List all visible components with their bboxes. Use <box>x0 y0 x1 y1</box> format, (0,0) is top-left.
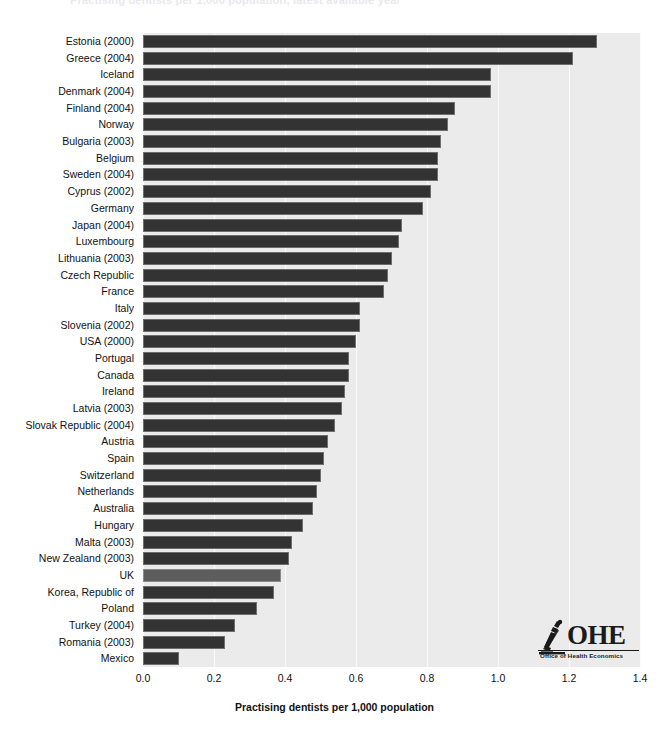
bar[interactable] <box>143 552 289 565</box>
bar-row[interactable] <box>143 517 640 534</box>
bar[interactable] <box>143 435 328 448</box>
bar[interactable] <box>143 185 431 198</box>
y-axis-label: Czech Republic <box>0 267 139 284</box>
bar[interactable] <box>143 168 438 181</box>
y-axis-label: Ireland <box>0 383 139 400</box>
bar[interactable] <box>143 652 179 665</box>
bar[interactable] <box>143 602 257 615</box>
bar[interactable] <box>143 485 317 498</box>
bar[interactable] <box>143 419 335 432</box>
bar[interactable] <box>143 285 384 298</box>
bar-row[interactable] <box>143 50 640 67</box>
bar[interactable] <box>143 68 491 81</box>
bar[interactable] <box>143 319 360 332</box>
bar-row[interactable] <box>143 183 640 200</box>
bar-row[interactable] <box>143 283 640 300</box>
y-axis-label: Germany <box>0 200 139 217</box>
bar[interactable] <box>143 352 349 365</box>
bar-row[interactable] <box>143 66 640 83</box>
bar[interactable] <box>143 452 324 465</box>
bar-row[interactable] <box>143 100 640 117</box>
bar-row[interactable] <box>143 383 640 400</box>
bar-row[interactable] <box>143 584 640 601</box>
y-axis-label: Korea, Republic of <box>0 584 139 601</box>
x-axis-title: Practising dentists per 1,000 population <box>0 701 669 713</box>
bar-row[interactable] <box>143 333 640 350</box>
bar[interactable] <box>143 202 423 215</box>
bar[interactable] <box>143 252 392 265</box>
bar[interactable] <box>143 35 597 48</box>
bar[interactable] <box>143 502 313 515</box>
y-axis-label: Bulgaria (2003) <box>0 133 139 150</box>
y-axis-label: Romania (2003) <box>0 634 139 651</box>
bar-row[interactable] <box>143 534 640 551</box>
bar-row[interactable] <box>143 467 640 484</box>
bar-row[interactable] <box>143 450 640 467</box>
bar-row[interactable] <box>143 433 640 450</box>
bar[interactable] <box>143 536 292 549</box>
x-axis-tick-label: 0.6 <box>336 672 376 684</box>
x-axis-tick-label: 0.2 <box>194 672 234 684</box>
bar[interactable] <box>143 152 438 165</box>
chart-title: Practising dentists per 1,000 population… <box>70 0 590 6</box>
bar[interactable] <box>143 385 345 398</box>
bar[interactable] <box>143 235 399 248</box>
bar-row[interactable] <box>143 83 640 100</box>
bar-row[interactable] <box>143 133 640 150</box>
x-axis-tick-label: 0.4 <box>265 672 305 684</box>
bar-row[interactable] <box>143 600 640 617</box>
bar[interactable] <box>143 52 573 65</box>
bar-row[interactable] <box>143 33 640 50</box>
bar[interactable] <box>143 569 281 582</box>
bar[interactable] <box>143 586 274 599</box>
y-axis-label: Hungary <box>0 517 139 534</box>
bar[interactable] <box>143 469 321 482</box>
y-axis-label: Belgium <box>0 150 139 167</box>
bar[interactable] <box>143 636 225 649</box>
y-axis-labels: Estonia (2000)Greece (2004)IcelandDenmar… <box>0 33 139 667</box>
bar-row[interactable] <box>143 500 640 517</box>
bar-row[interactable] <box>143 317 640 334</box>
bar-row[interactable] <box>143 150 640 167</box>
bar[interactable] <box>143 102 455 115</box>
ohe-logo: OHE Office of Health Economics <box>536 617 641 667</box>
bar-row[interactable] <box>143 350 640 367</box>
bar-row[interactable] <box>143 567 640 584</box>
bar[interactable] <box>143 519 303 532</box>
y-axis-label: Norway <box>0 116 139 133</box>
y-axis-label: Portugal <box>0 350 139 367</box>
bar-row[interactable] <box>143 250 640 267</box>
y-axis-label: Austria <box>0 433 139 450</box>
bar-row[interactable] <box>143 166 640 183</box>
bar[interactable] <box>143 219 402 232</box>
bar[interactable] <box>143 619 235 632</box>
bar[interactable] <box>143 118 448 131</box>
bar[interactable] <box>143 269 388 282</box>
bar-row[interactable] <box>143 217 640 234</box>
bar-row[interactable] <box>143 233 640 250</box>
bar-chart: Practising dentists per 1,000 population… <box>0 0 669 741</box>
bar-row[interactable] <box>143 300 640 317</box>
y-axis-label: Canada <box>0 367 139 384</box>
ohe-wordmark: OHE <box>567 620 626 651</box>
y-axis-label: Cyprus (2002) <box>0 183 139 200</box>
y-axis-label: UK <box>0 567 139 584</box>
bar[interactable] <box>143 369 349 382</box>
y-axis-label: Mexico <box>0 650 139 667</box>
bar-row[interactable] <box>143 267 640 284</box>
bar-row[interactable] <box>143 200 640 217</box>
bar[interactable] <box>143 402 342 415</box>
bar[interactable] <box>143 302 360 315</box>
y-axis-label: Poland <box>0 600 139 617</box>
bar-row[interactable] <box>143 400 640 417</box>
bar[interactable] <box>143 135 441 148</box>
bar[interactable] <box>143 335 356 348</box>
y-axis-label: Estonia (2000) <box>0 33 139 50</box>
bar-row[interactable] <box>143 483 640 500</box>
y-axis-label: France <box>0 283 139 300</box>
bar[interactable] <box>143 85 491 98</box>
bar-row[interactable] <box>143 367 640 384</box>
bar-row[interactable] <box>143 550 640 567</box>
bar-row[interactable] <box>143 116 640 133</box>
bar-row[interactable] <box>143 417 640 434</box>
